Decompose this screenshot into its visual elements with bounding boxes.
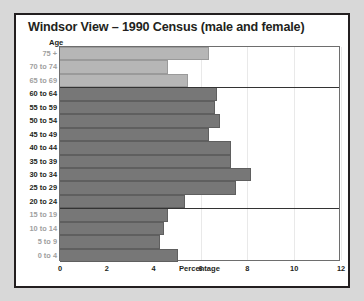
bar [60, 155, 231, 168]
bar-row [60, 235, 341, 248]
y-tick-label: 10 to 14 [0, 222, 57, 235]
chart-title: Windsor View – 1990 Census (male and fem… [28, 20, 305, 34]
y-tick-label: 45 to 49 [0, 128, 57, 141]
bar-row [60, 141, 341, 154]
y-tick-label: 5 to 9 [0, 235, 57, 248]
bar-row [60, 181, 341, 194]
bar [60, 101, 215, 114]
bar [60, 114, 220, 127]
bar [60, 181, 236, 194]
bar-row [60, 128, 341, 141]
group-separator [60, 87, 339, 88]
bar-row [60, 155, 341, 168]
y-tick-label: 0 to 4 [0, 249, 57, 262]
group-separator [60, 208, 339, 209]
bar-row [60, 87, 341, 100]
bar-row [60, 222, 341, 235]
bar [60, 47, 209, 60]
y-tick-label: 60 to 64 [0, 87, 57, 100]
y-tick-label: 55 to 59 [0, 101, 57, 114]
bar [60, 208, 168, 221]
bar [60, 249, 178, 262]
bar [60, 74, 188, 87]
y-tick-label: 75 + [0, 47, 57, 60]
x-axis-title: Percentage [59, 264, 340, 273]
bar-row [60, 249, 341, 262]
bar-row [60, 195, 341, 208]
y-tick-label: 30 to 34 [0, 168, 57, 181]
bar [60, 60, 168, 73]
bar [60, 128, 209, 141]
bar-row [60, 47, 341, 60]
y-tick-label: 50 to 54 [0, 114, 57, 127]
bar [60, 141, 231, 154]
bar [60, 87, 217, 100]
plot-area: 75 +70 to 7465 to 6960 to 6455 to 5950 t… [59, 46, 340, 261]
gridline-12 [341, 47, 342, 260]
bar-row [60, 208, 341, 221]
y-tick-label: 25 to 29 [0, 181, 57, 194]
bar [60, 235, 160, 248]
y-tick-label: 65 to 69 [0, 74, 57, 87]
bar-row [60, 101, 341, 114]
bar-row [60, 60, 341, 73]
bar-row [60, 74, 341, 87]
chart-panel: Windsor View – 1990 Census (male and fem… [14, 13, 350, 288]
bar [60, 168, 251, 181]
y-tick-label: 40 to 44 [0, 141, 57, 154]
y-tick-label: 35 to 39 [0, 155, 57, 168]
y-tick-label: 20 to 24 [0, 195, 57, 208]
y-tick-label: 15 to 19 [0, 208, 57, 221]
y-tick-label: 70 to 74 [0, 60, 57, 73]
bar-row [60, 114, 341, 127]
bar [60, 222, 164, 235]
bar [60, 195, 185, 208]
bar-row [60, 168, 341, 181]
